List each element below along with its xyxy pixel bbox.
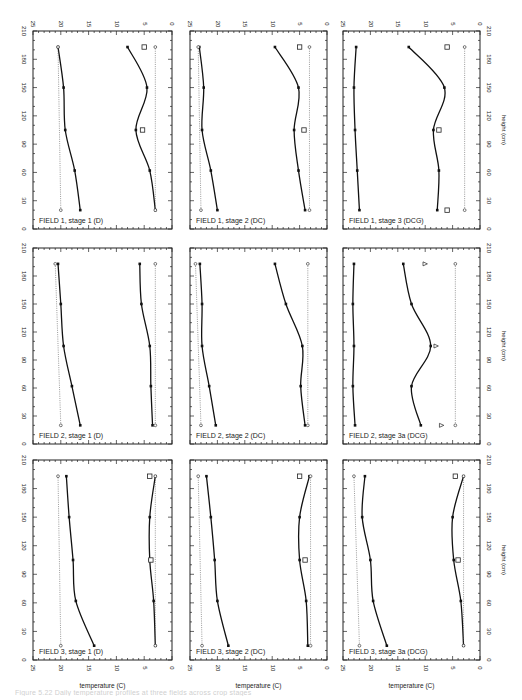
- height-axis-label: height (cm): [501, 331, 507, 361]
- data-point: [213, 559, 216, 562]
- data-point: [372, 600, 375, 603]
- height-tick-label: 60: [21, 600, 27, 607]
- data-point: [297, 169, 300, 172]
- temperature-tick-label: 15: [242, 665, 248, 672]
- square-marker: [140, 128, 144, 132]
- profile-curve: [199, 47, 217, 210]
- temperature-tick-label: 5: [297, 666, 303, 670]
- temperature-tick-label: 20: [368, 21, 374, 28]
- temperature-tick-label: 15: [395, 665, 401, 672]
- height-tick-label: 60: [21, 169, 27, 176]
- data-point: [358, 209, 361, 212]
- temperature-tick-label: 25: [187, 21, 193, 28]
- temperature-tick-label: 0: [169, 22, 175, 26]
- height-tick-label: 120: [21, 541, 27, 552]
- height-tick-label: 60: [21, 385, 27, 392]
- data-point: [140, 303, 143, 306]
- temperature-tick-label: 5: [450, 22, 456, 26]
- profile-curve: [58, 47, 80, 210]
- reference-line: [195, 264, 200, 425]
- temperature-tick-label: 20: [58, 665, 64, 672]
- height-tick-label: 210: [486, 26, 492, 37]
- height-tick-label: 60: [486, 169, 492, 176]
- height-tick-label: 0: [21, 658, 27, 662]
- profile-curve: [353, 264, 355, 425]
- data-point: [65, 475, 68, 478]
- temperature-tick-label: 5: [297, 22, 303, 26]
- panel-title: FIELD 2, stage 3a (DCG): [349, 432, 428, 440]
- height-tick-label: 180: [486, 54, 492, 65]
- data-point: [274, 263, 277, 266]
- data-point: [135, 129, 138, 132]
- data-point: [402, 263, 405, 266]
- height-tick-label: 180: [486, 484, 492, 495]
- data-point: [73, 169, 76, 172]
- temperature-tick-label: 5: [142, 666, 148, 670]
- data-point: [285, 303, 288, 306]
- height-tick-label: 60: [486, 600, 492, 607]
- data-point: [79, 424, 82, 427]
- data-point: [148, 169, 151, 172]
- triangle-marker: [423, 262, 427, 266]
- height-tick-label: 0: [486, 227, 492, 231]
- height-tick-label: 210: [21, 455, 27, 466]
- data-point: [410, 385, 413, 388]
- data-point: [227, 644, 230, 647]
- profile-curve: [200, 264, 216, 425]
- panel-title: FIELD 3, stage 3a (DCG): [349, 648, 428, 656]
- panel-frame: [33, 248, 172, 444]
- height-tick-label: 30: [21, 413, 27, 420]
- height-tick-label: 210: [21, 26, 27, 37]
- figure-caption: Figure 5.22 Daily temperature profiles a…: [15, 689, 515, 696]
- height-tick-label: 90: [486, 141, 492, 148]
- data-point: [205, 475, 208, 478]
- data-point: [355, 46, 358, 49]
- data-point: [293, 129, 296, 132]
- data-point: [126, 46, 129, 49]
- data-point: [201, 345, 204, 348]
- square-marker: [302, 128, 306, 132]
- data-point: [148, 516, 151, 519]
- data-point: [216, 600, 219, 603]
- panel-frame: [33, 31, 172, 229]
- data-point: [353, 263, 356, 266]
- profile-curve: [275, 47, 305, 210]
- height-tick-label: 0: [486, 442, 492, 446]
- profile-curve: [206, 476, 228, 646]
- data-point: [410, 303, 413, 306]
- height-tick-label: 0: [486, 658, 492, 662]
- reference-line: [354, 476, 359, 646]
- data-point: [298, 516, 301, 519]
- data-point: [79, 209, 82, 212]
- temperature-tick-label: 0: [477, 666, 483, 670]
- height-tick-label: 30: [21, 197, 27, 204]
- temperature-tick-label: 10: [114, 665, 120, 672]
- data-point: [214, 424, 217, 427]
- data-point: [210, 169, 213, 172]
- height-tick-label: 210: [486, 455, 492, 466]
- data-point: [460, 600, 463, 603]
- height-tick-label: 180: [21, 484, 27, 495]
- data-point: [93, 644, 96, 647]
- height-tick-label: 150: [21, 299, 27, 310]
- temperature-tick-label: 5: [142, 22, 148, 26]
- height-tick-label: 120: [21, 111, 27, 122]
- profile-curve: [403, 264, 430, 425]
- panel-frame: [343, 31, 480, 229]
- data-point: [438, 169, 441, 172]
- data-point: [64, 129, 67, 132]
- temperature-tick-label: 25: [30, 21, 36, 28]
- temperature-tick-label: 5: [450, 666, 456, 670]
- temperature-tick-label: 15: [242, 21, 248, 28]
- data-point: [432, 129, 435, 132]
- data-point: [138, 263, 141, 266]
- data-point: [305, 600, 308, 603]
- temperature-tick-label: 25: [30, 665, 36, 672]
- square-marker: [297, 474, 301, 478]
- height-tick-label: 90: [21, 357, 27, 364]
- profile-curve: [140, 264, 153, 425]
- height-axis-label: height (cm): [501, 545, 507, 575]
- data-point: [199, 263, 202, 266]
- profile-curve: [362, 476, 387, 646]
- height-tick-label: 30: [486, 197, 492, 204]
